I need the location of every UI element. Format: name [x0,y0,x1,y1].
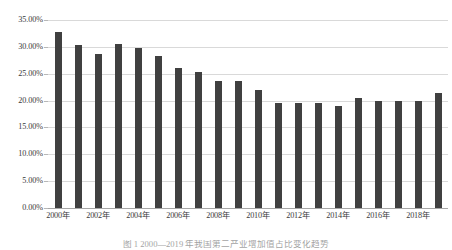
bar [235,81,242,208]
x-axis-tick-label: 2012年 [286,212,309,220]
bar [295,103,302,208]
bar [195,72,202,208]
y-axis-tick-label: 25.00% [0,70,48,78]
y-axis-tick-label: 15.00% [0,123,48,131]
x-axis-line [48,208,448,209]
bars-group [48,0,448,208]
bar [255,90,262,208]
x-axis-tick-label: 2008年 [206,212,229,220]
x-axis-tick-label: 2006年 [166,212,189,220]
x-axis-labels-group: 2000年2002年2004年2006年2008年2010年2012年2014年… [48,210,448,226]
y-axis-tick-label: 30.00% [0,43,48,51]
bar [375,101,382,208]
x-axis-tick-label: 2016年 [366,212,389,220]
y-axis-tick-label: 5.00% [0,177,48,185]
bar [155,56,162,208]
bar [175,68,182,208]
bar [115,44,122,208]
bar [215,81,222,208]
bar [135,48,142,208]
bar-chart: 0.00%5.00%10.00%15.00%20.00%25.00%30.00%… [0,0,452,230]
x-axis-tick-label: 2000年 [46,212,69,220]
x-axis-tick-label: 2014年 [326,212,349,220]
y-axis-tick-label: 10.00% [0,150,48,158]
y-axis-tick-label: 0.00% [0,204,48,212]
figure-container: 0.00%5.00%10.00%15.00%20.00%25.00%30.00%… [0,0,452,250]
bar [335,106,342,208]
x-axis-tick-label: 2004年 [126,212,149,220]
y-axis-tick-label: 35.00% [0,16,48,24]
bar [395,101,402,208]
bar [95,54,102,208]
bar [75,45,82,208]
x-axis-tick-label: 2010年 [246,212,269,220]
bar [275,103,282,208]
bar [435,93,442,208]
bar [415,101,422,208]
x-axis-tick-label: 2018年 [406,212,429,220]
bar [315,103,322,208]
x-axis-tick-label: 2002年 [86,212,109,220]
bar [355,98,362,208]
bar [55,32,62,208]
figure-caption: 图 1 2000—2019 年我国第二产业增加值占比变化趋势 [0,240,452,249]
y-axis-tick-label: 20.00% [0,96,48,104]
